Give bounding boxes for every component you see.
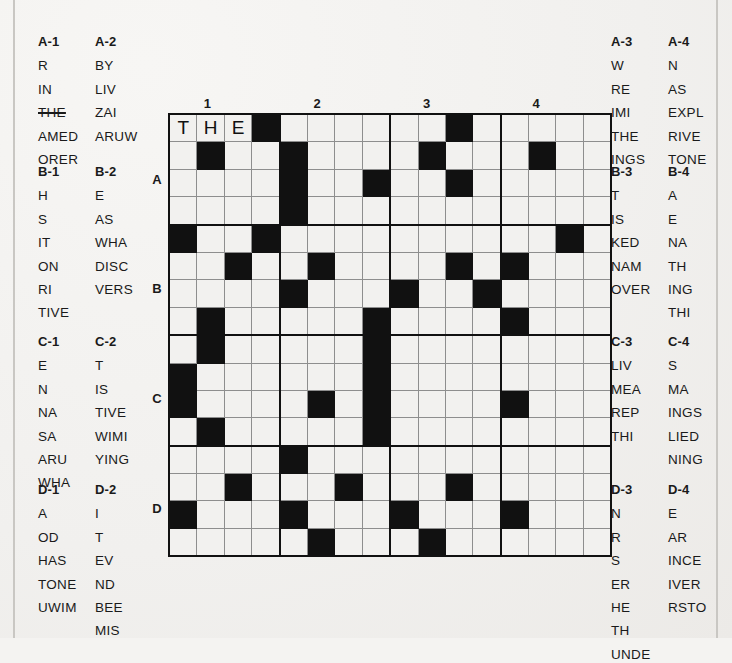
clue-fragment[interactable]: AS (668, 78, 706, 101)
grid-cell[interactable] (252, 142, 280, 169)
grid-cell[interactable] (307, 142, 334, 169)
grid-cell[interactable] (445, 528, 472, 556)
grid-cell[interactable] (169, 528, 197, 556)
clue-fragment[interactable]: W (611, 54, 645, 77)
grid-cell[interactable] (169, 280, 197, 307)
grid-cell[interactable] (197, 501, 224, 528)
grid-cell[interactable] (224, 501, 251, 528)
grid-cell[interactable] (529, 501, 556, 528)
grid-cell[interactable] (501, 142, 529, 169)
grid-cell[interactable] (390, 225, 418, 253)
grid-cell[interactable] (280, 418, 308, 446)
grid-cell[interactable] (252, 390, 280, 417)
clue-fragment[interactable]: DISC (95, 255, 133, 278)
grid-cell[interactable] (390, 363, 418, 390)
grid-cell[interactable] (280, 335, 308, 363)
grid-cell[interactable] (583, 307, 611, 335)
grid-cell[interactable] (418, 252, 445, 279)
grid-cell[interactable] (197, 474, 224, 501)
clue-fragment[interactable]: E (668, 208, 693, 231)
grid-cell[interactable] (529, 363, 556, 390)
grid-cell[interactable] (224, 335, 251, 363)
grid-cell[interactable] (529, 528, 556, 556)
clue-fragment[interactable]: TIVE (95, 401, 129, 424)
clue-fragment[interactable]: TONE (38, 573, 77, 596)
grid-cell[interactable] (501, 363, 529, 390)
grid-cell[interactable] (280, 252, 308, 279)
grid-cell[interactable] (224, 418, 251, 446)
clue-fragment[interactable]: UWIM (38, 596, 77, 619)
clue-fragment[interactable]: HE (611, 596, 650, 619)
grid-cell[interactable] (252, 501, 280, 528)
grid-cell[interactable] (307, 280, 334, 307)
grid-cell[interactable] (252, 252, 280, 279)
grid-cell[interactable] (169, 446, 197, 474)
crossword-grid[interactable]: THE (168, 113, 612, 557)
grid-cell[interactable] (556, 280, 583, 307)
grid-cell[interactable] (556, 390, 583, 417)
clue-fragment[interactable]: NA (668, 231, 693, 254)
clue-fragment[interactable]: IN (38, 78, 78, 101)
grid-cell[interactable] (418, 197, 445, 225)
grid-cell[interactable] (390, 390, 418, 417)
clue-fragment[interactable]: LIED (668, 425, 703, 448)
grid-cell[interactable] (307, 446, 334, 474)
grid-cell[interactable] (197, 528, 224, 556)
clue-fragment[interactable]: E (38, 354, 70, 377)
clue-fragment[interactable]: TH (668, 255, 693, 278)
grid-cell[interactable] (335, 114, 362, 142)
clue-fragment[interactable]: TIVE (38, 301, 69, 324)
grid-cell[interactable] (335, 307, 362, 335)
clue-fragment[interactable]: IS (95, 378, 129, 401)
grid-cell[interactable] (556, 446, 583, 474)
grid-cell[interactable] (445, 446, 472, 474)
clue-fragment[interactable]: MA (668, 378, 703, 401)
clue-fragment[interactable]: BEE (95, 596, 123, 619)
grid-cell[interactable] (224, 142, 251, 169)
grid-cell[interactable] (583, 501, 611, 528)
grid-cell[interactable] (169, 169, 197, 196)
clue-fragment[interactable]: THE (38, 101, 78, 124)
grid-cell[interactable] (224, 225, 251, 253)
clue-fragment[interactable]: AMED (38, 125, 78, 148)
grid-cell[interactable] (169, 307, 197, 335)
grid-cell[interactable] (224, 446, 251, 474)
grid-cell[interactable] (418, 446, 445, 474)
grid-cell[interactable] (307, 474, 334, 501)
grid-cell[interactable] (362, 446, 390, 474)
clue-fragment[interactable]: UNDE (611, 643, 650, 663)
grid-cell[interactable] (197, 280, 224, 307)
grid-cell[interactable] (473, 335, 501, 363)
grid-cell[interactable] (280, 307, 308, 335)
grid-cell[interactable] (169, 142, 197, 169)
grid-cell[interactable] (583, 114, 611, 142)
grid-cell[interactable] (473, 169, 501, 196)
grid-cell[interactable] (583, 418, 611, 446)
grid-cell[interactable] (583, 528, 611, 556)
grid-cell[interactable] (307, 307, 334, 335)
grid-cell-filled[interactable]: T (169, 114, 197, 142)
grid-cell[interactable] (473, 142, 501, 169)
grid-cell[interactable] (307, 114, 334, 142)
grid-cell[interactable] (501, 197, 529, 225)
clue-fragment[interactable]: IT (38, 231, 69, 254)
grid-cell[interactable] (418, 169, 445, 196)
grid-cell[interactable] (280, 528, 308, 556)
grid-cell[interactable] (224, 307, 251, 335)
grid-cell-filled[interactable]: E (224, 114, 251, 142)
grid-cell[interactable] (362, 225, 390, 253)
grid-cell[interactable] (583, 252, 611, 279)
grid-cell[interactable] (445, 142, 472, 169)
grid-cell[interactable] (556, 418, 583, 446)
grid-cell[interactable] (501, 446, 529, 474)
grid-cell[interactable] (280, 225, 308, 253)
grid-cell[interactable] (280, 390, 308, 417)
clue-fragment[interactable]: KED (611, 231, 650, 254)
grid-cell[interactable] (418, 363, 445, 390)
grid-cell[interactable] (556, 474, 583, 501)
grid-cell[interactable] (197, 169, 224, 196)
grid-cell[interactable] (556, 114, 583, 142)
grid-cell[interactable] (529, 252, 556, 279)
grid-cell[interactable] (335, 142, 362, 169)
grid-cell[interactable] (473, 225, 501, 253)
